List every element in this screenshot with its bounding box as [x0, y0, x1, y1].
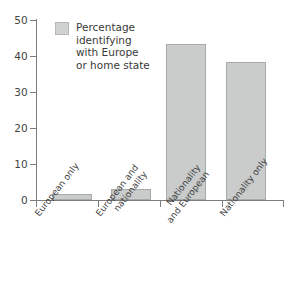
- y-tick-label-10: 10: [0, 159, 28, 170]
- bar-chart-figure: 0 10 20 30 40 50 European only European …: [0, 0, 296, 299]
- legend-label-percentage: Percentage identifying with Europe or ho…: [76, 21, 150, 71]
- y-tick-label-0: 0: [0, 195, 28, 206]
- x-tick-mark-4: [283, 201, 284, 207]
- legend: Percentage identifying with Europe or ho…: [55, 21, 150, 71]
- legend-label-line: Percentage: [76, 21, 150, 34]
- legend-label-line: with Europe: [76, 46, 150, 59]
- y-tick-mark-50: [30, 20, 36, 21]
- y-tick-mark-20: [30, 128, 36, 129]
- x-axis-label-line: European only: [33, 161, 82, 219]
- legend-label-line: or home state: [76, 59, 150, 72]
- y-tick-mark-10: [30, 164, 36, 165]
- y-tick-label-20: 20: [0, 123, 28, 134]
- legend-swatch-percentage: [55, 22, 69, 35]
- y-tick-mark-40: [30, 56, 36, 57]
- y-tick-label-40: 40: [0, 51, 28, 62]
- legend-label-line: identifying: [76, 34, 150, 47]
- y-axis-line: [36, 19, 37, 201]
- y-tick-label-50: 50: [0, 15, 28, 26]
- y-tick-label-30: 30: [0, 87, 28, 98]
- x-axis-label-european-only: European only: [33, 161, 82, 219]
- y-tick-mark-30: [30, 92, 36, 93]
- plot-area: 0 10 20 30 40 50 European only European …: [0, 0, 296, 299]
